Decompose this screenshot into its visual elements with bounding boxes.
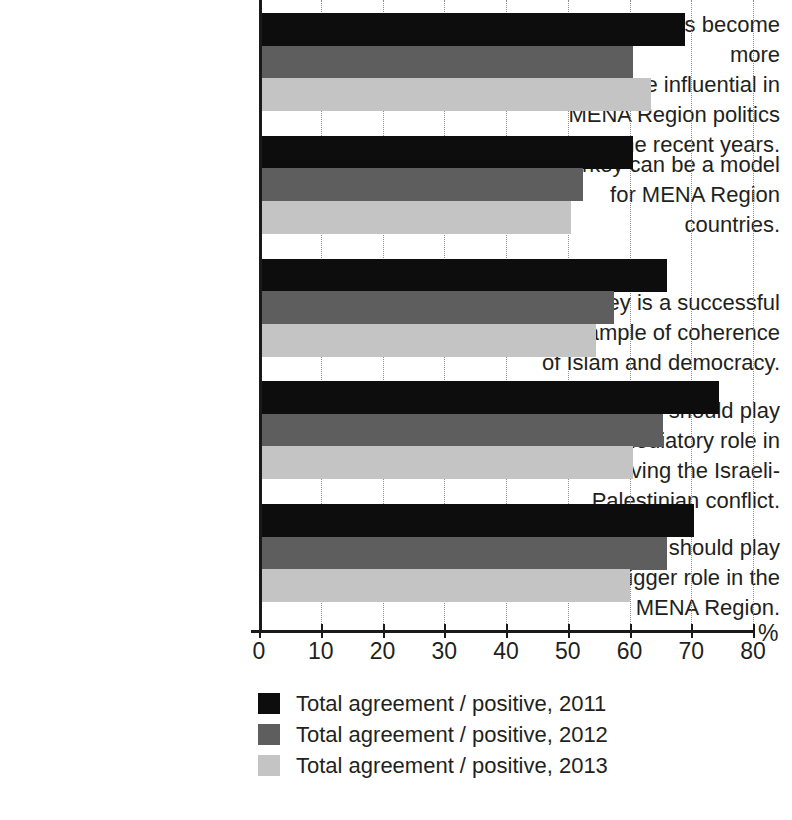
x-tick-mark [383, 624, 385, 638]
x-tick-label: 60 [600, 638, 660, 664]
legend-item[interactable]: Total agreement / positive, 2011 [258, 688, 738, 719]
bar-chart: Turkey has become more and more influent… [0, 0, 792, 820]
bar [259, 504, 694, 537]
bar [259, 537, 667, 570]
x-tick-label: 30 [414, 638, 474, 664]
legend-item[interactable]: Total agreement / positive, 2012 [258, 719, 738, 750]
x-tick-label: 50 [538, 638, 598, 664]
x-tick-label: 20 [353, 638, 413, 664]
bar [259, 168, 583, 201]
legend: Total agreement / positive, 2011 Total a… [258, 688, 738, 781]
bar [259, 201, 571, 234]
bar [259, 78, 651, 111]
x-tick-mark [753, 624, 755, 638]
x-tick-mark [321, 624, 323, 638]
x-tick-mark [630, 624, 632, 638]
legend-swatch-icon [258, 724, 280, 745]
legend-label: Total agreement / positive, 2013 [296, 753, 608, 779]
legend-item[interactable]: Total agreement / positive, 2013 [258, 750, 738, 781]
x-axis-line [251, 630, 753, 633]
bar [259, 13, 685, 46]
bar [259, 291, 614, 324]
legend-label: Total agreement / positive, 2012 [296, 722, 608, 748]
x-tick-mark [568, 624, 570, 638]
x-tick-label: 40 [476, 638, 536, 664]
bar [259, 446, 633, 479]
bar [259, 381, 719, 414]
bar [259, 414, 663, 447]
legend-label: Total agreement / positive, 2011 [296, 691, 606, 717]
x-tick-label: 70 [661, 638, 721, 664]
x-tick-label: 10 [291, 638, 351, 664]
bar [259, 324, 596, 357]
bar [259, 136, 633, 169]
plot-area [259, 0, 753, 630]
x-axis-unit-label: % [758, 620, 778, 646]
x-tick-mark [259, 624, 261, 638]
gridline [753, 0, 754, 630]
bar [259, 46, 633, 79]
bar [259, 569, 630, 602]
x-tick-label: 0 [229, 638, 289, 664]
y-axis-line [259, 0, 262, 631]
x-tick-mark [444, 624, 446, 638]
x-tick-mark [506, 624, 508, 638]
legend-swatch-icon [258, 755, 280, 776]
x-tick-mark [691, 624, 693, 638]
legend-swatch-icon [258, 693, 280, 714]
bar [259, 259, 667, 292]
